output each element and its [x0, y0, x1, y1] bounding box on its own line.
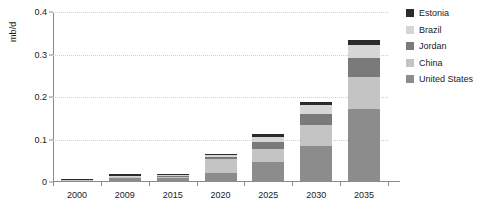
bar-segment[interactable]	[300, 146, 332, 182]
y-tick-label: 0	[42, 177, 47, 187]
gridline	[53, 97, 388, 98]
bar-segment[interactable]	[348, 109, 380, 182]
bar-segment[interactable]	[157, 174, 189, 175]
bar-segment[interactable]	[300, 125, 332, 146]
x-tick-label: 2015	[163, 190, 183, 200]
bar-segment[interactable]	[348, 77, 380, 109]
bar-group[interactable]	[109, 174, 141, 182]
legend-item-label: Brazil	[419, 25, 442, 35]
bar-group[interactable]	[300, 102, 332, 182]
y-tick-label: 0.4	[34, 7, 47, 17]
y-tick-mark	[49, 139, 53, 140]
bar-segment[interactable]	[157, 176, 189, 178]
y-tick-mark	[49, 54, 53, 55]
bar-segment[interactable]	[205, 154, 237, 156]
x-tick-label: 2035	[354, 190, 374, 200]
x-tick-label: 2009	[115, 190, 135, 200]
legend-item[interactable]: China	[406, 58, 473, 68]
x-tick-mark	[149, 182, 150, 186]
bar-segment[interactable]	[61, 180, 93, 182]
bar-segment[interactable]	[348, 58, 380, 77]
legend-item[interactable]: Jordan	[406, 41, 473, 51]
legend-item[interactable]: United States	[406, 74, 473, 84]
plot-area: 00.10.20.30.4 20002009201520202025203020…	[53, 12, 388, 182]
y-axis-label: mb/d	[8, 2, 22, 42]
bar-group[interactable]	[157, 174, 189, 183]
gridline	[53, 55, 388, 56]
bar-segment[interactable]	[205, 157, 237, 159]
x-tick-label: 2025	[258, 190, 278, 200]
bar-segment[interactable]	[348, 40, 380, 44]
bar-segment[interactable]	[109, 174, 141, 175]
y-tick-label: 0.3	[34, 50, 47, 60]
bar-segment[interactable]	[300, 114, 332, 125]
x-tick-label: 2030	[306, 190, 326, 200]
x-tick-mark	[53, 182, 54, 186]
bar-segment[interactable]	[205, 159, 237, 173]
gridline	[53, 12, 388, 13]
x-tick-mark	[197, 182, 198, 186]
x-tick-mark	[244, 182, 245, 186]
bar-segment[interactable]	[205, 173, 237, 182]
gridline	[53, 140, 388, 141]
bar-segment[interactable]	[300, 105, 332, 114]
bar-group[interactable]	[252, 134, 284, 182]
bar-segment[interactable]	[157, 178, 189, 182]
bar-segment[interactable]	[109, 177, 141, 178]
bar-segment[interactable]	[205, 155, 237, 157]
legend-item-label: United States	[419, 74, 473, 84]
legend-item-label: China	[419, 58, 443, 68]
x-tick-label: 2000	[67, 190, 87, 200]
x-tick-mark	[340, 182, 341, 186]
y-tick-label: 0.2	[34, 92, 47, 102]
chart-legend: EstoniaBrazilJordanChinaUnited States	[406, 8, 473, 84]
bar-segment[interactable]	[252, 142, 284, 149]
legend-swatch-icon	[406, 42, 414, 50]
y-tick-mark	[49, 97, 53, 98]
bar-segment[interactable]	[109, 178, 141, 182]
bar-segment[interactable]	[109, 176, 141, 177]
bar-segment[interactable]	[252, 162, 284, 182]
x-tick-mark	[101, 182, 102, 186]
x-tick-mark	[388, 182, 389, 186]
bar-group[interactable]	[205, 154, 237, 182]
legend-swatch-icon	[406, 26, 414, 34]
bar-segment[interactable]	[252, 149, 284, 162]
bar-group[interactable]	[61, 179, 93, 182]
legend-item-label: Jordan	[419, 41, 447, 51]
legend-swatch-icon	[406, 75, 414, 83]
legend-item-label: Estonia	[419, 8, 449, 18]
bar-segment[interactable]	[348, 45, 380, 58]
y-tick-mark	[49, 12, 53, 13]
stacked-bar-chart: mb/d 00.10.20.30.4 200020092015202020252…	[0, 0, 487, 211]
bar-segment[interactable]	[252, 137, 284, 142]
bar-segment[interactable]	[252, 134, 284, 137]
bar-segment[interactable]	[157, 175, 189, 176]
y-tick-label: 0.1	[34, 135, 47, 145]
legend-swatch-icon	[406, 9, 414, 17]
legend-item[interactable]: Estonia	[406, 8, 473, 18]
legend-swatch-icon	[406, 59, 414, 67]
bar-segment[interactable]	[300, 102, 332, 105]
bar-group[interactable]	[348, 40, 380, 182]
legend-item[interactable]: Brazil	[406, 25, 473, 35]
x-tick-label: 2020	[210, 190, 230, 200]
x-tick-mark	[292, 182, 293, 186]
